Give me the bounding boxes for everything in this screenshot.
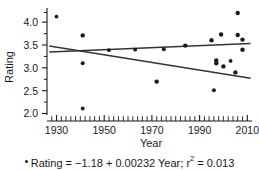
trend-lines xyxy=(49,44,250,79)
x-tick-label: 1930 xyxy=(45,124,69,136)
y-tick-label: 3.0 xyxy=(23,62,38,74)
data-point xyxy=(209,38,213,42)
x-tick-label: 1970 xyxy=(140,124,164,136)
x-axis-title: Year xyxy=(140,137,163,149)
x-tick-label: 2010 xyxy=(236,124,259,136)
data-point xyxy=(219,32,223,36)
data-point xyxy=(55,15,59,19)
x-tick-label: 1990 xyxy=(188,124,212,136)
x-tick-labels: 1930 1950 1970 1990 2010 xyxy=(45,124,259,136)
data-points xyxy=(55,11,245,111)
caption-r-value: = 0.013 xyxy=(194,157,234,169)
data-point xyxy=(236,33,240,37)
data-point xyxy=(214,61,218,65)
chart-figure: 2.0 2.5 3.0 3.5 4.0 xyxy=(0,0,259,170)
y-tick-label: 4.0 xyxy=(23,16,38,28)
y-tick-labels: 2.0 2.5 3.0 3.5 4.0 xyxy=(23,16,38,119)
data-point xyxy=(107,48,111,52)
x-axis-ticks xyxy=(52,115,248,121)
y-tick-label: 3.5 xyxy=(23,39,38,51)
data-point xyxy=(183,43,187,47)
data-point xyxy=(155,79,159,83)
data-point xyxy=(212,88,216,92)
caption-equation-body: −1.18 + 0.00232 Year; xyxy=(75,157,186,169)
data-point xyxy=(236,11,240,15)
scatter-plot: 2.0 2.5 3.0 3.5 4.0 xyxy=(0,0,259,170)
data-point xyxy=(240,37,244,41)
x-tick-minor-group xyxy=(52,116,243,121)
reference-line xyxy=(49,46,250,78)
data-point xyxy=(81,33,85,37)
y-tick-label: 2.5 xyxy=(23,85,38,97)
chart-caption: Rating = −1.18 + 0.00232 Year; r2 = 0.01… xyxy=(0,152,259,170)
caption-equation-prefix: Rating = xyxy=(31,157,75,169)
y-axis-ticks xyxy=(42,13,47,114)
data-point xyxy=(81,107,85,111)
data-point xyxy=(162,47,166,51)
data-point xyxy=(133,48,137,52)
data-point xyxy=(81,61,85,65)
caption-bullet-icon xyxy=(25,160,28,163)
data-point xyxy=(233,70,237,74)
data-point xyxy=(240,48,244,52)
y-tick-label: 2.0 xyxy=(23,107,38,119)
x-tick-label: 1950 xyxy=(93,124,117,136)
axes xyxy=(47,8,252,121)
data-point xyxy=(229,59,233,63)
data-point xyxy=(221,64,225,68)
y-axis-title: Rating xyxy=(3,51,15,83)
